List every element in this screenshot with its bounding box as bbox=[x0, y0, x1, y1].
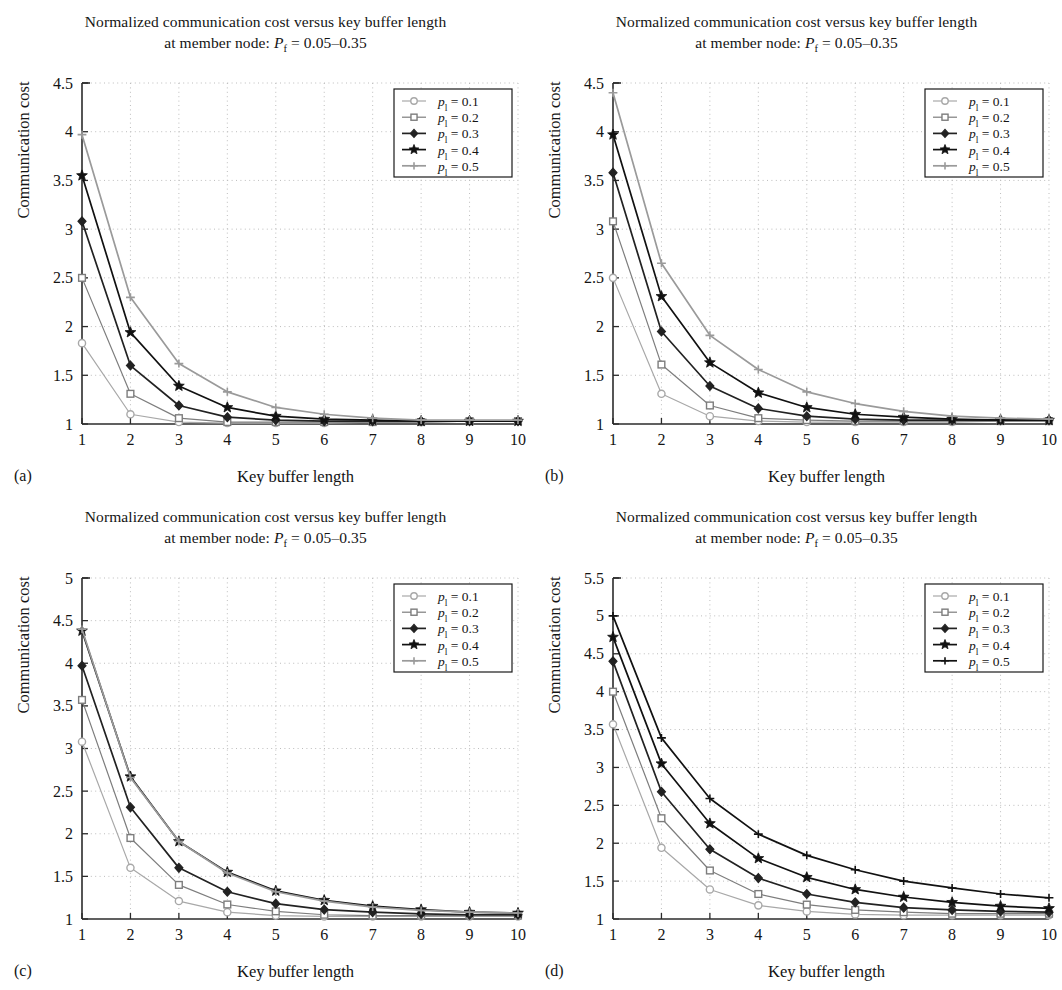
x-tick-label: 3 bbox=[175, 431, 183, 448]
y-tick-label: 4 bbox=[65, 123, 73, 140]
series-line bbox=[79, 274, 522, 425]
x-axis-ticks: 12345678910 bbox=[78, 913, 526, 943]
x-axis-ticks: 12345678910 bbox=[609, 913, 1057, 943]
x-axis-label: Key buffer length bbox=[70, 467, 521, 487]
x-tick-label: 4 bbox=[223, 926, 231, 943]
x-tick-label: 6 bbox=[320, 926, 328, 943]
x-tick-label: 4 bbox=[754, 431, 762, 448]
series-line bbox=[609, 168, 1053, 424]
series-line bbox=[608, 631, 1055, 913]
x-tick-label: 3 bbox=[706, 926, 714, 943]
panel-c: Normalized communication cost versus key… bbox=[0, 495, 531, 990]
x-tick-label: 10 bbox=[510, 431, 526, 448]
x-tick-label: 9 bbox=[466, 926, 474, 943]
y-axis-label: Communication cost bbox=[14, 30, 34, 270]
x-tick-label: 1 bbox=[78, 926, 86, 943]
x-tick-label: 9 bbox=[997, 926, 1005, 943]
y-axis-label: Communication cost bbox=[545, 525, 565, 765]
panel-b: Normalized communication cost versus key… bbox=[531, 0, 1062, 495]
x-tick-label: 7 bbox=[369, 431, 377, 448]
legend: pl = 0.1pl = 0.2pl = 0.3pl = 0.4pl = 0.5 bbox=[394, 89, 512, 178]
x-tick-label: 7 bbox=[900, 926, 908, 943]
y-tick-label: 1 bbox=[65, 911, 73, 928]
y-tick-label: 3 bbox=[65, 740, 73, 757]
legend: pl = 0.1pl = 0.2pl = 0.3pl = 0.4pl = 0.5 bbox=[394, 584, 512, 673]
x-tick-label: 1 bbox=[609, 926, 617, 943]
y-tick-label: 4 bbox=[65, 655, 73, 672]
x-tick-label: 5 bbox=[803, 926, 811, 943]
x-tick-label: 4 bbox=[754, 926, 762, 943]
y-tick-label: 1 bbox=[596, 911, 604, 928]
x-tick-label: 7 bbox=[900, 431, 908, 448]
y-tick-label: 3.5 bbox=[584, 721, 604, 738]
panel-letter: (c) bbox=[14, 962, 32, 980]
series-line bbox=[78, 738, 521, 920]
series-line bbox=[78, 340, 521, 427]
y-tick-label: 2 bbox=[596, 318, 604, 335]
y-tick-label: 2.5 bbox=[53, 783, 73, 800]
x-axis-label: Key buffer length bbox=[601, 962, 1052, 982]
x-tick-label: 2 bbox=[126, 926, 134, 943]
x-tick-label: 1 bbox=[78, 431, 86, 448]
panel-d: Normalized communication cost versus key… bbox=[531, 495, 1062, 990]
y-tick-label: 4.5 bbox=[584, 75, 604, 92]
x-tick-label: 10 bbox=[1041, 431, 1057, 448]
x-tick-label: 4 bbox=[223, 431, 231, 448]
plot-area: 11.522.533.544.512345678910pl = 0.1pl = … bbox=[531, 0, 1062, 495]
x-tick-label: 10 bbox=[510, 926, 526, 943]
series-line bbox=[609, 274, 1052, 425]
series-line bbox=[78, 661, 522, 919]
y-tick-label: 4.5 bbox=[53, 612, 73, 629]
panel-letter: (a) bbox=[14, 467, 32, 485]
y-tick-label: 2.5 bbox=[584, 269, 604, 286]
y-tick-label: 2 bbox=[65, 825, 73, 842]
x-tick-label: 2 bbox=[126, 431, 134, 448]
y-tick-label: 5.5 bbox=[584, 570, 604, 587]
x-tick-label: 10 bbox=[1041, 926, 1057, 943]
y-tick-label: 2.5 bbox=[584, 797, 604, 814]
x-tick-label: 2 bbox=[657, 926, 665, 943]
y-tick-label: 1.5 bbox=[53, 868, 73, 885]
x-tick-label: 8 bbox=[948, 431, 956, 448]
y-tick-label: 1 bbox=[65, 416, 73, 433]
x-tick-label: 2 bbox=[657, 431, 665, 448]
panel-letter: (b) bbox=[545, 467, 564, 485]
series-line bbox=[610, 218, 1053, 424]
y-tick-label: 2 bbox=[65, 318, 73, 335]
x-tick-label: 5 bbox=[272, 926, 280, 943]
panel-a: Normalized communication cost versus key… bbox=[0, 0, 531, 495]
panel-letter: (d) bbox=[545, 962, 564, 980]
figure-grid: Normalized communication cost versus key… bbox=[0, 0, 1062, 990]
y-tick-label: 1.5 bbox=[584, 367, 604, 384]
y-tick-label: 5 bbox=[596, 607, 604, 624]
plot-area: 11.522.533.544.5512345678910pl = 0.1pl =… bbox=[0, 495, 531, 990]
y-tick-label: 1.5 bbox=[53, 367, 73, 384]
series-line bbox=[77, 170, 524, 426]
x-axis-label: Key buffer length bbox=[601, 467, 1052, 487]
y-tick-label: 1.5 bbox=[584, 873, 604, 890]
x-tick-label: 1 bbox=[609, 431, 617, 448]
x-tick-label: 3 bbox=[175, 926, 183, 943]
series-line bbox=[78, 217, 522, 426]
x-tick-label: 8 bbox=[417, 431, 425, 448]
x-tick-label: 6 bbox=[320, 431, 328, 448]
x-tick-label: 6 bbox=[851, 431, 859, 448]
legend: pl = 0.1pl = 0.2pl = 0.3pl = 0.4pl = 0.5 bbox=[925, 89, 1043, 178]
x-tick-label: 8 bbox=[948, 926, 956, 943]
y-tick-label: 3.5 bbox=[53, 697, 73, 714]
y-tick-label: 3 bbox=[65, 221, 73, 238]
y-tick-label: 4.5 bbox=[584, 645, 604, 662]
x-axis-label: Key buffer length bbox=[70, 962, 521, 982]
x-tick-label: 9 bbox=[466, 431, 474, 448]
series-line bbox=[79, 697, 522, 919]
plot-area: 11.522.533.544.512345678910pl = 0.1pl = … bbox=[0, 0, 531, 495]
x-tick-label: 5 bbox=[272, 431, 280, 448]
y-tick-label: 2 bbox=[596, 835, 604, 852]
y-tick-label: 3 bbox=[596, 221, 604, 238]
y-tick-label: 1 bbox=[596, 416, 604, 433]
series-line bbox=[609, 657, 1053, 917]
y-tick-label: 4.5 bbox=[53, 75, 73, 92]
y-tick-label: 3 bbox=[596, 759, 604, 776]
plot-area: 11.522.533.544.555.512345678910pl = 0.1p… bbox=[531, 495, 1062, 990]
y-tick-label: 4 bbox=[596, 683, 604, 700]
